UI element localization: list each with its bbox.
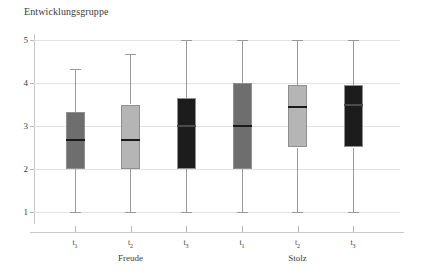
lower-whisker-line bbox=[242, 169, 243, 212]
upper-whisker-cap bbox=[70, 69, 81, 70]
median-line bbox=[344, 104, 363, 106]
group-label-stolz: Stolz bbox=[288, 253, 307, 263]
x-tick-mark bbox=[242, 226, 243, 232]
lower-whisker-cap bbox=[237, 212, 248, 213]
chart-title: Entwicklungsgruppe bbox=[24, 6, 109, 17]
lower-whisker-line bbox=[353, 148, 354, 213]
upper-whisker-cap bbox=[237, 40, 248, 41]
lower-whisker-line bbox=[186, 169, 187, 212]
y-tick-label: 2 bbox=[14, 164, 28, 174]
upper-whisker-line bbox=[186, 40, 187, 98]
box-rect bbox=[177, 98, 196, 169]
upper-whisker-cap bbox=[292, 40, 303, 41]
median-line bbox=[66, 139, 85, 141]
y-tick-label: 5 bbox=[14, 35, 28, 45]
gridline-1 bbox=[34, 212, 400, 213]
upper-whisker-cap bbox=[125, 54, 136, 55]
upper-whisker-line bbox=[130, 54, 131, 104]
median-line bbox=[233, 125, 252, 127]
boxplot-chart: Entwicklungsgruppe 12345 t1t2t3t1t2t3 Fr… bbox=[0, 0, 426, 276]
group-label-freude: Freude bbox=[118, 253, 143, 263]
x-axis-line bbox=[30, 232, 404, 233]
lower-whisker-line bbox=[75, 169, 76, 212]
lower-whisker-cap bbox=[70, 212, 81, 213]
median-line bbox=[177, 125, 196, 127]
lower-whisker-cap bbox=[348, 212, 359, 213]
y-tick-label: 4 bbox=[14, 78, 28, 88]
box-rect bbox=[344, 85, 363, 147]
box-plot bbox=[233, 40, 252, 212]
x-tick-mark bbox=[353, 226, 354, 232]
upper-whisker-line bbox=[242, 40, 243, 83]
x-tick-mark bbox=[186, 226, 187, 232]
median-line bbox=[121, 139, 140, 141]
upper-whisker-line bbox=[353, 40, 354, 85]
x-tick-mark bbox=[75, 226, 76, 232]
box-plot bbox=[288, 40, 307, 212]
lower-whisker-cap bbox=[125, 212, 136, 213]
upper-whisker-line bbox=[297, 40, 298, 85]
x-tick-label: t2 bbox=[128, 238, 133, 249]
x-tick-label: t3 bbox=[350, 238, 355, 249]
lower-whisker-line bbox=[297, 148, 298, 213]
x-tick-label: t2 bbox=[295, 238, 300, 249]
box-plot bbox=[177, 40, 196, 212]
y-tick-label: 1 bbox=[14, 207, 28, 217]
box-rect bbox=[288, 85, 307, 147]
x-tick-label: t1 bbox=[72, 238, 77, 249]
x-tick-label: t3 bbox=[183, 238, 188, 249]
lower-whisker-cap bbox=[292, 212, 303, 213]
plot-area bbox=[34, 40, 400, 212]
upper-whisker-line bbox=[75, 69, 76, 112]
y-tick-label: 3 bbox=[14, 121, 28, 131]
box-plot bbox=[121, 40, 140, 212]
upper-whisker-cap bbox=[181, 40, 192, 41]
x-tick-mark bbox=[131, 226, 132, 232]
x-tick-mark bbox=[298, 226, 299, 232]
upper-whisker-cap bbox=[348, 40, 359, 41]
box-plot bbox=[66, 40, 85, 212]
box-rect bbox=[121, 105, 140, 170]
x-tick-label: t1 bbox=[239, 238, 244, 249]
box-plot bbox=[344, 40, 363, 212]
median-line bbox=[288, 106, 307, 108]
lower-whisker-cap bbox=[181, 212, 192, 213]
lower-whisker-line bbox=[130, 169, 131, 212]
